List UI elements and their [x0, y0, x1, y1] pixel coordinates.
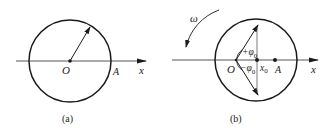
point-a-dot-b [273, 58, 277, 62]
plus-phase-label: +φ0 [242, 47, 258, 60]
x0-label: x0 [259, 63, 268, 75]
x-axis-label-a: x [138, 64, 144, 76]
point-a-label-b: A [274, 64, 282, 75]
caption-a: (a) [62, 113, 73, 125]
origin-dot-a [68, 59, 72, 63]
origin-label-b: O [227, 63, 235, 75]
diagram-canvas: O A x (a) ω O +φ0 −φ0 x0 A x (b) [0, 0, 332, 132]
origin-dot-b [235, 59, 237, 61]
figure-a [16, 20, 146, 102]
omega-label: ω [190, 12, 198, 24]
caption-b: (b) [230, 113, 242, 125]
rotating-vector-a [70, 27, 90, 61]
x-axis-label-b: x [310, 63, 316, 75]
origin-label-a: O [62, 64, 70, 76]
minus-phase-label: −φ0 [240, 63, 256, 76]
point-a-label-a: A [112, 66, 120, 77]
